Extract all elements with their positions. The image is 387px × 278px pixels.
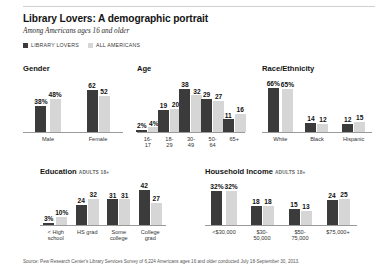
bar[interactable] — [179, 89, 190, 132]
bar[interactable] — [226, 191, 237, 225]
legend-label: LIBRARY LOVERS — [31, 42, 79, 48]
bar-group: 2432 — [72, 177, 104, 225]
bar-item[interactable]: 16 — [235, 74, 246, 132]
bar[interactable] — [327, 200, 338, 225]
bar-value-label: 62 — [88, 82, 95, 89]
bar[interactable] — [342, 124, 353, 132]
bar-group: 1513 — [281, 177, 319, 225]
bar[interactable] — [136, 130, 147, 132]
bar[interactable] — [99, 96, 110, 132]
bar-item[interactable]: 15 — [354, 74, 365, 132]
bar-pair: 66%65% — [267, 74, 294, 132]
bar-value-label: 65% — [281, 81, 294, 88]
bar-value-label: 24 — [78, 197, 85, 204]
chart-panel-education: EducationADULTS 18+ 3%10%243231314227< H… — [40, 160, 180, 250]
category-labels: MaleFemale — [23, 133, 123, 142]
bar[interactable] — [87, 90, 98, 133]
bar-item[interactable]: 24 — [327, 177, 338, 225]
bar[interactable] — [139, 190, 150, 225]
bar-item[interactable]: 29 — [201, 74, 212, 132]
bar[interactable] — [56, 217, 67, 225]
bar[interactable] — [268, 88, 279, 132]
bar-item[interactable]: 12 — [317, 74, 328, 132]
bar-item[interactable]: 31 — [119, 177, 130, 225]
bar-item[interactable]: 11 — [223, 74, 234, 132]
bar[interactable] — [251, 206, 262, 225]
plot-area-household-income: 32%32%181815132425<$30,000$30- 50,000$50… — [205, 178, 357, 226]
bar[interactable] — [235, 114, 246, 132]
bar[interactable] — [305, 123, 316, 132]
bar[interactable] — [317, 124, 328, 132]
plot-area-age: 2%4%192038322927111616- 1718- 2930- 4950… — [137, 75, 245, 133]
chart-panel-gender: Gender 38%48%6252MaleFemale — [23, 57, 133, 147]
bar-item[interactable]: 31 — [107, 177, 118, 225]
bar[interactable] — [35, 106, 46, 132]
bar-pair: 3%10% — [43, 177, 68, 225]
bar[interactable] — [151, 203, 162, 225]
bar[interactable] — [76, 205, 87, 225]
bar[interactable] — [282, 89, 293, 132]
bar-value-label: 12 — [319, 116, 326, 123]
bar-item[interactable]: 42 — [139, 177, 150, 225]
bar-item[interactable]: 27 — [151, 177, 162, 225]
bar-item[interactable]: 13 — [301, 177, 312, 225]
bar[interactable] — [201, 99, 212, 132]
bar-item[interactable]: 24 — [76, 177, 87, 225]
bar-item[interactable]: 19 — [158, 74, 169, 132]
bar[interactable] — [263, 206, 274, 225]
bar-item[interactable]: 2% — [136, 74, 147, 132]
bar-value-label: 48% — [49, 91, 62, 98]
bar-value-label: 32 — [193, 88, 200, 95]
bar[interactable] — [339, 199, 350, 225]
bar-value-label: 10% — [55, 209, 68, 216]
bar-item[interactable]: 32% — [210, 177, 223, 225]
bar-item[interactable]: 32% — [225, 177, 238, 225]
bar-item[interactable]: 65% — [281, 74, 294, 132]
bar[interactable] — [301, 211, 312, 225]
bar-value-label: 38% — [34, 98, 47, 105]
bar-group: 4227 — [135, 177, 167, 225]
bar[interactable] — [43, 223, 54, 225]
bar[interactable] — [223, 119, 234, 132]
bar-item[interactable]: 62 — [87, 74, 98, 132]
bar[interactable] — [119, 199, 130, 225]
bar-value-label: 38 — [181, 81, 188, 88]
bar-item[interactable]: 66% — [267, 74, 280, 132]
bar-group: 1116 — [223, 74, 245, 132]
bar-value-label: 20 — [172, 101, 179, 108]
bar-item[interactable]: 14 — [305, 74, 316, 132]
bar-item[interactable]: 48% — [49, 74, 62, 132]
category-label: 16- 17 — [137, 133, 159, 148]
bar-group: 2%4% — [137, 74, 159, 132]
bar-value-label: 27 — [153, 195, 160, 202]
bar-group: 1818 — [243, 177, 281, 225]
bar-value-label: 16 — [237, 106, 244, 113]
bar-item[interactable]: 52 — [99, 74, 110, 132]
bar-item[interactable]: 12 — [342, 74, 353, 132]
legend-item-library-lovers: LIBRARY LOVERS — [23, 42, 79, 48]
bar-item[interactable]: 18 — [263, 177, 274, 225]
bar-value-label: 18 — [252, 198, 259, 205]
bar[interactable] — [354, 122, 365, 132]
bar-item[interactable]: 38 — [179, 74, 190, 132]
bar-item[interactable]: 18 — [251, 177, 262, 225]
bar[interactable] — [107, 199, 118, 225]
bar-item[interactable]: 10% — [55, 177, 68, 225]
bar[interactable] — [211, 191, 222, 225]
legend-swatch-icon — [88, 43, 93, 48]
bar[interactable] — [88, 199, 99, 225]
bar-item[interactable]: 32 — [88, 177, 99, 225]
bar-item[interactable]: 25 — [339, 177, 350, 225]
bar[interactable] — [158, 110, 169, 132]
bar-item[interactable]: 15 — [289, 177, 300, 225]
bar-item[interactable]: 3% — [43, 177, 54, 225]
bar-item[interactable]: 38% — [34, 74, 47, 132]
bar-group: 3131 — [103, 177, 135, 225]
category-label: $50- 75,000 — [281, 226, 319, 241]
bar-pair: 1818 — [251, 177, 274, 225]
bar-pair: 1920 — [158, 74, 181, 132]
bar-value-label: 42 — [141, 182, 148, 189]
category-labels: WhiteBlackHispanic — [262, 133, 372, 142]
bar[interactable] — [50, 99, 61, 132]
bar[interactable] — [289, 209, 300, 225]
